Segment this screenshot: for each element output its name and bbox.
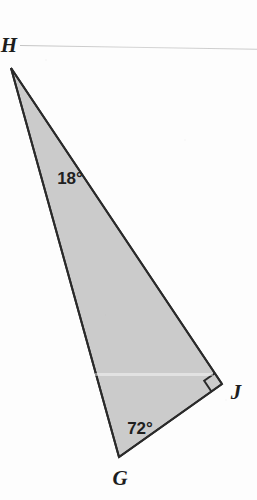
vertex-label-j: J — [231, 382, 242, 403]
angle-label-g-72: 72° — [127, 420, 153, 437]
triangle-shape — [11, 68, 222, 457]
vertex-label-g: G — [112, 468, 127, 489]
angle-label-h-18: 18° — [57, 170, 83, 187]
geometry-diagram: H G J 18° 72° — [0, 0, 257, 500]
vertex-label-h: H — [1, 35, 17, 56]
